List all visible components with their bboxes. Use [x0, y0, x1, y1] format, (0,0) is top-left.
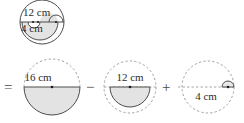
- label-top-12cm: 12 cm: [23, 6, 51, 18]
- figure-canvas: 12 cm 4 cm = 16 cm −: [0, 0, 244, 123]
- term-1-group: 16 cm: [24, 59, 80, 115]
- term-3-label: 4 cm: [195, 90, 217, 102]
- operator-minus: −: [86, 79, 94, 95]
- center-dot-right: [55, 21, 57, 23]
- term-2-center-dot: [129, 86, 132, 89]
- geometry-figure: 12 cm 4 cm = 16 cm −: [0, 0, 244, 123]
- term-2-group: 12 cm: [104, 61, 156, 113]
- term-3-center-dot: [227, 86, 230, 89]
- term-3-group: 4 cm: [178, 61, 234, 113]
- operator-equals: =: [4, 79, 12, 95]
- top-composite-figure: 12 cm 4 cm: [20, 0, 64, 44]
- term-2-label: 12 cm: [116, 71, 144, 83]
- label-top-4cm: 4 cm: [21, 22, 43, 34]
- term-2-shaded-region: [110, 87, 150, 107]
- term-1-center-dot: [51, 86, 54, 89]
- operator-plus: +: [162, 79, 170, 95]
- term-1-label: 16 cm: [24, 71, 52, 83]
- term-1-shaded-region: [24, 87, 80, 115]
